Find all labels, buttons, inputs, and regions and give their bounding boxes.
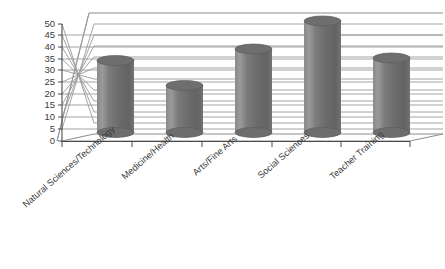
y-tick-label: 20 — [44, 88, 55, 99]
bar-cylinder[interactable] — [97, 56, 134, 138]
bar-cylinder[interactable] — [166, 81, 203, 138]
bar-chart-3d: 50 45 40 35 30 25 20 15 10 5 0 — [0, 0, 445, 269]
y-tick-label: 25 — [44, 76, 55, 87]
category-label: Natural Sciences/Technology — [21, 124, 117, 210]
chart-container: 50 45 40 35 30 25 20 15 10 5 0 — [0, 0, 445, 269]
y-tick-label: 15 — [44, 99, 55, 110]
y-tick-label: 45 — [44, 29, 55, 40]
bar-cylinder[interactable] — [235, 44, 272, 138]
y-tick-label: 35 — [44, 53, 55, 64]
bar-cylinder[interactable] — [304, 16, 341, 138]
y-tick-label: 10 — [44, 111, 55, 122]
y-tick-label: 50 — [44, 18, 55, 29]
y-tick-label: 0 — [50, 135, 55, 146]
bar-cylinder[interactable] — [373, 53, 410, 138]
y-tick-label: 5 — [50, 123, 55, 134]
y-axis-tick-labels: 50 45 40 35 30 25 20 15 10 5 0 — [44, 18, 55, 146]
y-tick-label: 40 — [44, 41, 55, 52]
y-tick-label: 30 — [44, 64, 55, 75]
